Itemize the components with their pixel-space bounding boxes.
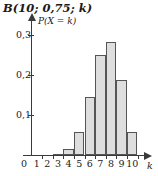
y-axis-tick-label: 0,3 (16, 29, 31, 40)
y-axis-line (31, 20, 32, 156)
x-axis-arrow-icon (144, 152, 152, 160)
histogram-bar (106, 42, 117, 155)
binomial-distribution-figure: B(10; 0,75; k) P(X = k) k 0 0,10,20,3 12… (0, 0, 158, 176)
y-axis-tick-label: 0,2 (16, 69, 31, 80)
origin-label: 0 (21, 158, 27, 169)
y-axis-tick-label: 0,1 (16, 109, 31, 120)
histogram-bar (116, 80, 127, 155)
x-axis-label: k (147, 160, 153, 171)
x-axis-tick-label: 10 (123, 158, 141, 169)
histogram-bar (85, 97, 96, 155)
y-axis-label: P(X = k) (38, 16, 76, 26)
histogram-bar (95, 55, 106, 155)
histogram-bar (74, 132, 85, 155)
plot-area: P(X = k) k 0 0,10,20,3 12345678910 (0, 0, 158, 176)
y-axis-arrow-icon (28, 13, 36, 21)
histogram-bar (127, 132, 138, 155)
histogram-bar (63, 149, 74, 155)
